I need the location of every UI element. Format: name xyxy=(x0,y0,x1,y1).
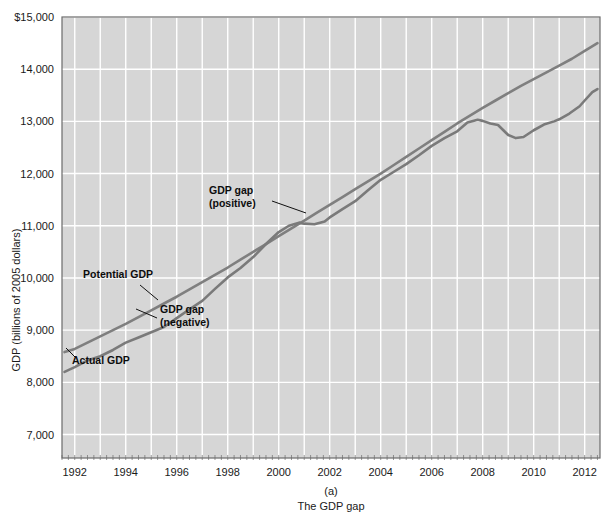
x-tick-label: 2000 xyxy=(266,466,290,478)
x-tick-label: 1998 xyxy=(215,466,239,478)
y-tick-label: 10,000 xyxy=(20,272,54,284)
annotation-gdp-gap-negative: (negative) xyxy=(160,316,210,328)
y-tick-label: 11,000 xyxy=(21,220,54,232)
plot-area-background xyxy=(62,17,600,458)
caption-title: The GDP gap xyxy=(297,500,364,512)
x-tick-label: 2008 xyxy=(470,466,494,478)
y-tick-label: 14,000 xyxy=(20,63,54,75)
x-tick-label: 1996 xyxy=(164,466,188,478)
x-tick-label: 2012 xyxy=(572,466,596,478)
caption-panel-label: (a) xyxy=(324,485,337,497)
y-tick-label: $15,000 xyxy=(14,11,54,23)
x-tick-label: 1992 xyxy=(63,466,87,478)
x-tick-label: 2010 xyxy=(521,466,545,478)
y-tick-label: 12,000 xyxy=(20,168,54,180)
x-tick-label: 2004 xyxy=(368,466,392,478)
annotation-gdp-gap-positive: GDP gap xyxy=(209,184,253,196)
annotation-actual-gdp: Actual GDP xyxy=(72,354,130,366)
vertical-gridlines xyxy=(75,17,585,458)
x-tick-label: 1994 xyxy=(114,466,138,478)
gdp-gap-chart: $15,00014,00013,00012,00011,00010,0009,0… xyxy=(0,0,614,513)
x-tick-label: 2002 xyxy=(317,466,341,478)
annotation-gdp-gap-negative: GDP gap xyxy=(160,303,204,315)
y-tick-label: 9,000 xyxy=(26,324,54,336)
y-tick-label: 7,000 xyxy=(26,429,54,441)
y-tick-label: 8,000 xyxy=(26,376,54,388)
y-tick-label: 13,000 xyxy=(20,115,54,127)
annotation-potential-gdp: Potential GDP xyxy=(83,268,153,280)
x-tick-label: 2006 xyxy=(419,466,443,478)
y-axis-title: GDP (billions of 2005 dollars) xyxy=(10,229,22,372)
annotation-gdp-gap-positive: (positive) xyxy=(209,197,256,209)
